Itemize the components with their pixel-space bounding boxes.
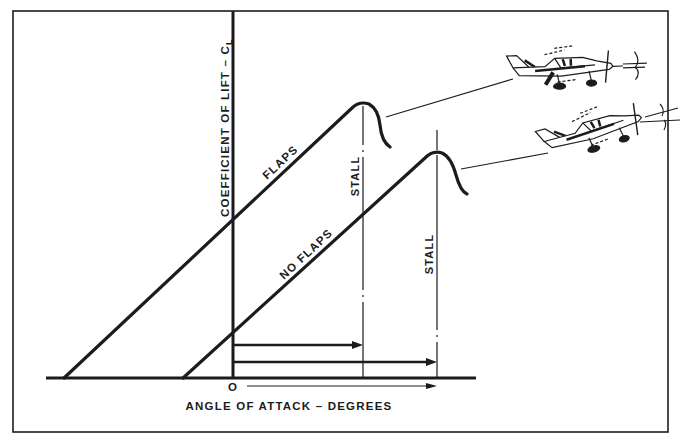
increasing-angle-arrowhead-icon <box>426 383 437 389</box>
airplane-no-flaps-icon <box>533 96 647 165</box>
x-axis-label: ANGLE OF ATTACK – DEGREES <box>186 400 393 412</box>
origin-label: O <box>228 381 238 393</box>
flaps-stall-label: STALL <box>349 156 361 197</box>
no-flaps-arrowhead-icon <box>426 358 437 366</box>
pitch-angle-indicator-icon <box>640 104 680 130</box>
flaps-leader-line <box>386 79 513 117</box>
no-flaps-stall-label: STALL <box>423 234 435 275</box>
no-flaps-leader-line <box>461 153 548 169</box>
no-flaps-label: NO FLAPS <box>277 226 335 281</box>
flaps-arrowhead-icon <box>352 341 363 349</box>
airplane-flaps-icon <box>506 43 647 91</box>
lift-curve-diagram: COEFFICIENT OF LIFT – CL FLAPS NO FLAPS … <box>0 0 698 446</box>
